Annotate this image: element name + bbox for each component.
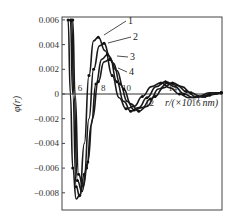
y-tick-label: −0.008 — [34, 188, 60, 198]
data-point — [137, 110, 140, 113]
y-tick-label: −0.004 — [34, 138, 60, 148]
leader-line — [108, 37, 131, 43]
x-tick-label: 8 — [101, 83, 106, 93]
data-point — [92, 68, 95, 71]
data-point — [87, 74, 90, 77]
data-point — [108, 58, 111, 61]
data-point — [103, 42, 106, 45]
data-point — [76, 179, 79, 182]
data-point — [97, 36, 100, 39]
y-tick-label: 0.002 — [39, 64, 59, 74]
y-axis-ticks: 0.0060.0040.0020−0.002−0.004−0.006−0.008 — [34, 15, 65, 198]
data-point — [75, 185, 78, 188]
data-point — [71, 18, 74, 21]
y-tick-label: 0 — [55, 89, 60, 99]
curve-label: 4 — [129, 66, 134, 77]
data-point — [77, 173, 80, 176]
leader-line — [117, 56, 128, 57]
y-tick-label: −0.006 — [34, 163, 60, 173]
data-point — [145, 96, 148, 99]
curve-label: 2 — [133, 31, 138, 42]
data-point — [171, 81, 174, 84]
data-point — [111, 74, 114, 77]
data-point — [220, 91, 223, 94]
data-point — [129, 110, 132, 113]
y-tick-label: 0.006 — [39, 15, 60, 25]
curve-label: 1 — [128, 15, 133, 26]
x-tick-label: 6 — [78, 83, 83, 93]
leader-line — [118, 68, 127, 72]
chart: 0.0060.0040.0020−0.002−0.004−0.006−0.008… — [0, 0, 244, 224]
data-point — [86, 160, 89, 163]
data-point — [190, 91, 193, 94]
data-point — [141, 95, 144, 98]
leader-line — [104, 21, 126, 35]
data-point — [97, 80, 100, 83]
curve-label: 3 — [130, 51, 135, 62]
data-point — [122, 88, 125, 91]
data-point — [106, 53, 109, 56]
y-axis-label: φ(r) — [11, 95, 23, 112]
data-point — [71, 167, 74, 170]
data-point — [154, 95, 157, 98]
data-point — [183, 93, 186, 96]
y-tick-label: 0.004 — [39, 40, 60, 50]
data-series — [67, 18, 223, 199]
y-tick-label: −0.002 — [34, 114, 59, 124]
